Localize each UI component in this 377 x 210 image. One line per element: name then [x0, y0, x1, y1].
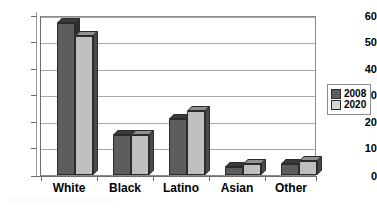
x-tick-mark-0 [41, 176, 42, 181]
y-tick-label-50: 50 [351, 37, 377, 48]
y-tick-label-0: 0 [351, 171, 377, 182]
bar-front-face [243, 164, 261, 175]
bar-side-face [205, 106, 210, 175]
x-tick-mark-4 [265, 176, 266, 181]
y-tick-mark-0 [31, 176, 37, 177]
bar-asian-2008 [225, 167, 243, 175]
x-tick-mark-5 [316, 176, 317, 181]
bar-front-face [113, 135, 131, 175]
x-axis-label-black: Black [97, 182, 153, 194]
bar-front-face [299, 161, 317, 175]
bar-other-2008 [281, 164, 299, 175]
bar-side-face [93, 31, 98, 175]
legend-swatch-icon-2020 [331, 100, 341, 110]
bar-black-2008 [113, 135, 131, 175]
y-axis-line [40, 16, 41, 177]
bar-side-face [149, 130, 154, 175]
bar-white-2020 [75, 36, 93, 175]
y-tick-label-20: 20 [351, 117, 377, 128]
x-axis-line [36, 176, 317, 177]
bar-front-face [75, 36, 93, 175]
bar-front-face [131, 135, 149, 175]
bar-chart: 60 50 40 30 20 10 0 White Black Latino A… [0, 0, 377, 210]
gridline-60 [40, 17, 315, 18]
x-axis-label-other: Other [265, 182, 317, 194]
legend-label-2020: 2020 [344, 100, 366, 110]
bar-asian-2020 [243, 164, 261, 175]
legend-swatch-icon-2008 [331, 89, 341, 99]
bar-front-face [169, 119, 187, 175]
y-tick-label-60: 60 [351, 11, 377, 22]
bar-front-face [225, 167, 243, 175]
bar-front-face [187, 111, 205, 175]
y-tick-mark-30 [31, 95, 37, 96]
scan-artifact [8, 196, 118, 202]
bar-front-face [281, 164, 299, 175]
x-tick-mark-2 [153, 176, 154, 181]
y-tick-mark-20 [31, 122, 37, 123]
y-axis-outer-line [36, 12, 37, 176]
plot-area [40, 16, 316, 176]
y-tick-mark-40 [31, 69, 37, 70]
x-tick-mark-3 [209, 176, 210, 181]
x-tick-mark-1 [97, 176, 98, 181]
legend-item-2008: 2008 [331, 89, 366, 99]
y-tick-mark-10 [31, 148, 37, 149]
legend-item-2020: 2020 [331, 100, 366, 110]
bar-latino-2020 [187, 111, 205, 175]
legend-label-2008: 2008 [344, 89, 366, 99]
bar-black-2020 [131, 135, 149, 175]
chart-legend: 2008 2020 [327, 84, 371, 115]
y-tick-label-10: 10 [351, 143, 377, 154]
bar-latino-2008 [169, 119, 187, 175]
bar-front-face [57, 23, 75, 175]
bar-white-2008 [57, 23, 75, 175]
y-tick-label-40: 40 [351, 64, 377, 75]
x-axis-label-white: White [41, 182, 97, 194]
x-axis-label-latino: Latino [153, 182, 209, 194]
x-axis-label-asian: Asian [209, 182, 265, 194]
y-tick-mark-50 [31, 42, 37, 43]
bar-other-2020 [299, 161, 317, 175]
y-tick-mark-60 [31, 16, 37, 17]
bar-side-face [317, 156, 322, 175]
bar-side-face [261, 159, 266, 175]
